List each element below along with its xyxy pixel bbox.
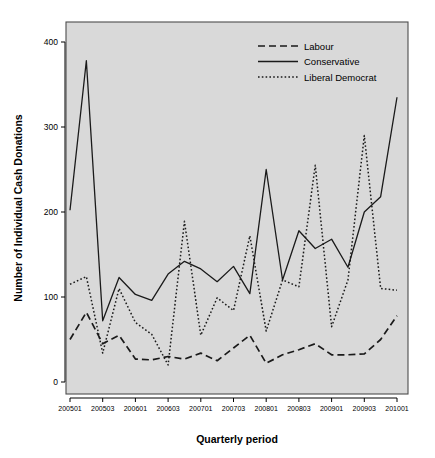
x-tick-label: 200701 xyxy=(189,405,212,412)
legend-label-liberal-democrat: Liberal Democrat xyxy=(304,72,377,83)
line-chart: 0100200300400 20050120050320060120060320… xyxy=(0,0,435,458)
x-tick-label: 200501 xyxy=(58,405,81,412)
x-tick-label: 200903 xyxy=(353,405,376,412)
x-tick-label: 200601 xyxy=(124,405,147,412)
x-tick-label: 201001 xyxy=(385,405,408,412)
y-tick-label: 400 xyxy=(44,37,58,47)
x-tick-label: 200603 xyxy=(156,405,179,412)
x-tick-label: 200503 xyxy=(91,405,114,412)
y-tick-label: 200 xyxy=(44,207,58,217)
x-tick-label: 200801 xyxy=(255,405,278,412)
y-tick-label: 300 xyxy=(44,122,58,132)
legend-label-labour: Labour xyxy=(304,41,334,52)
x-axis-title: Quarterly period xyxy=(196,433,278,445)
y-tick-label: 0 xyxy=(53,377,58,387)
legend-label-conservative: Conservative xyxy=(304,56,359,67)
x-tick-label: 200901 xyxy=(320,405,343,412)
x-tick-label: 200703 xyxy=(222,405,245,412)
y-axis-title: Number of Individual Cash Donations xyxy=(12,114,24,301)
y-tick-label: 100 xyxy=(44,292,58,302)
chart-container: 0100200300400 20050120050320060120060320… xyxy=(0,0,435,458)
x-tick-label: 200803 xyxy=(287,405,310,412)
